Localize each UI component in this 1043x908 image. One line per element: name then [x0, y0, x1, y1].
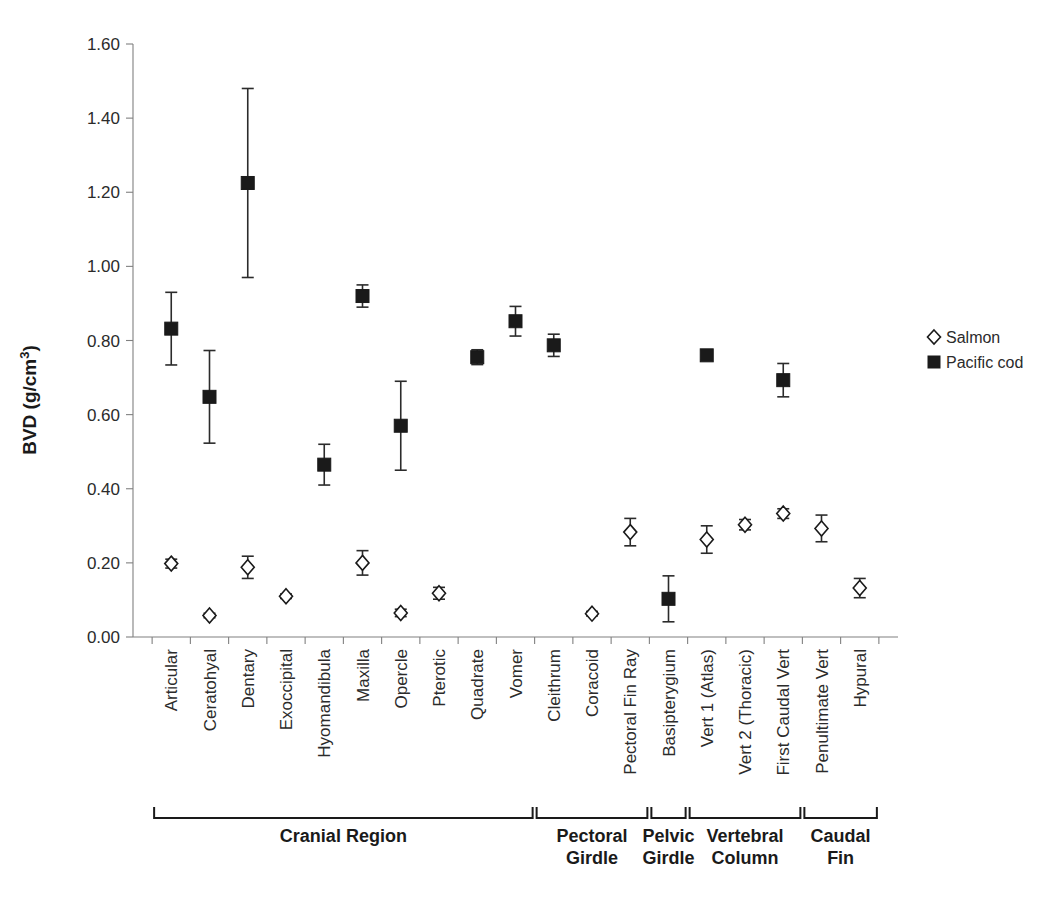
x-category-label: Coracoid: [583, 649, 602, 717]
x-category-label: Ceratohyal: [201, 649, 220, 731]
marker-filled-square: [203, 390, 216, 403]
marker-filled-square: [509, 315, 522, 328]
y-axis-title-main: BVD (g/cm: [19, 359, 40, 455]
y-tick-label: 0.00: [87, 628, 120, 647]
marker-filled-square: [777, 374, 790, 387]
x-category-label: Dentary: [239, 649, 258, 709]
data-point: [471, 350, 484, 365]
marker-filled-square: [700, 349, 713, 362]
data-point: [700, 349, 713, 362]
y-tick-label: 1.60: [87, 35, 120, 54]
x-category-label: Hypural: [851, 649, 870, 708]
y-tick-label: 1.00: [87, 257, 120, 276]
x-category-label: Exoccipital: [277, 649, 296, 730]
x-category-label: First Caudal Vert: [774, 649, 793, 776]
group-label: Pectoral: [556, 826, 627, 846]
marker-filled-square: [662, 592, 675, 605]
x-category-label: Cleithrum: [545, 649, 564, 722]
x-category-label: Maxilla: [354, 648, 373, 701]
y-axis-title-tail: ): [19, 345, 40, 351]
chart-background: [0, 0, 1043, 908]
x-category-label: Penultimate Vert: [813, 649, 832, 774]
marker-filled-square: [318, 458, 331, 471]
y-axis-title-superscript: 3: [17, 352, 32, 359]
x-category-label: Basipterygium: [660, 649, 679, 757]
legend-label: Salmon: [946, 329, 1000, 346]
group-label: Caudal: [811, 826, 871, 846]
group-label-line2: Column: [712, 848, 779, 868]
y-tick-label: 1.20: [87, 183, 120, 202]
group-label-line2: Girdle: [642, 848, 694, 868]
marker-filled-square: [394, 419, 407, 432]
marker-filled-square: [241, 176, 254, 189]
y-tick-label: 0.20: [87, 554, 120, 573]
x-category-label: Quadrate: [468, 649, 487, 720]
data-point: [777, 506, 790, 521]
bvd-chart-figure: BVD (g/cm3) 0.000.200.400.600.801.001.20…: [0, 0, 1043, 908]
y-axis-title-text: BVD (g/cm3): [17, 345, 40, 455]
group-label-line2: Girdle: [566, 848, 618, 868]
marker-filled-square: [356, 290, 369, 303]
legend-marker-filled-square: [928, 356, 940, 368]
data-point: [433, 586, 446, 601]
x-category-label: Vert 1 (Atlas): [698, 649, 717, 747]
y-tick-label: 0.60: [87, 406, 120, 425]
group-label-line2: Fin: [827, 848, 854, 868]
legend-label: Pacific cod: [946, 354, 1023, 371]
marker-filled-square: [547, 339, 560, 352]
y-tick-label: 0.80: [87, 332, 120, 351]
marker-filled-square: [471, 351, 484, 364]
x-category-label: Vomer: [507, 649, 526, 698]
chart-canvas: BVD (g/cm3) 0.000.200.400.600.801.001.20…: [0, 0, 1043, 908]
y-tick-label: 1.40: [87, 109, 120, 128]
x-category-label: Vert 2 (Thoracic): [736, 649, 755, 775]
marker-filled-square: [165, 322, 178, 335]
group-label: Pelvic: [642, 826, 694, 846]
x-category-label: Hyomandibula: [315, 648, 334, 757]
x-category-label: Pectoral Fin Ray: [621, 649, 640, 775]
y-axis-title: BVD (g/cm3): [17, 345, 40, 455]
x-category-label: Pterotic: [430, 649, 449, 707]
group-label: Cranial Region: [280, 826, 407, 846]
x-category-label: Opercle: [392, 649, 411, 709]
y-tick-label: 0.40: [87, 480, 120, 499]
group-label: Vertebral: [706, 826, 783, 846]
data-point: [739, 517, 752, 532]
x-category-label: Articular: [162, 649, 181, 712]
